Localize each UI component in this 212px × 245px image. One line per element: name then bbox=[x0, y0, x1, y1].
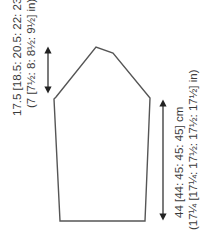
sleeve-length-imperial-label: (17¼ [17¼: 17½: 17½: 17½] in) bbox=[187, 69, 199, 230]
cap-height-metric-label: 17.5 [18.5: 20.5: 22: 23.5] cm bbox=[11, 0, 23, 116]
sleeve-outline bbox=[54, 47, 150, 221]
cap-height-imperial-label: (7 [7½: 8: 8½: 9½] in) bbox=[25, 0, 37, 108]
sleeve-length-metric-label: 44 [44: 45: 45: 45] cm bbox=[173, 107, 185, 218]
sleeve-diagram: 17.5 [18.5: 20.5: 22: 23.5] cm (7 [7½: 8… bbox=[0, 0, 212, 245]
